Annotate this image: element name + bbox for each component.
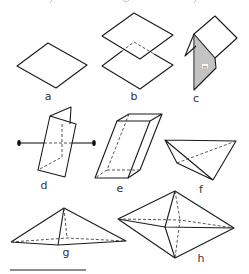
label-a: a xyxy=(45,90,52,103)
figure-g-pyramid xyxy=(11,208,126,245)
figure-e-parallelepiped xyxy=(95,114,162,178)
figure-f-tetrahedron xyxy=(165,140,236,180)
label-f: f xyxy=(199,183,204,196)
axis-end-dot xyxy=(92,140,96,146)
axis-end-dot xyxy=(17,140,21,146)
figure-d-folded-plane-axis xyxy=(17,107,96,177)
cropped-top-text xyxy=(50,0,196,3)
geometry-diagram: a b m c xyxy=(0,0,249,274)
panel-mark: m xyxy=(203,64,208,70)
label-h: h xyxy=(198,252,205,265)
label-g: g xyxy=(63,246,70,259)
label-e: e xyxy=(117,182,124,195)
label-b: b xyxy=(131,90,138,103)
figure-h-bipyramid xyxy=(118,191,234,258)
label-c: c xyxy=(193,92,199,105)
figure-c-intersecting-planes: m xyxy=(185,16,237,95)
figure-b-parallel-planes xyxy=(102,13,173,89)
label-d: d xyxy=(41,179,48,192)
figure-a-plane xyxy=(17,43,87,88)
